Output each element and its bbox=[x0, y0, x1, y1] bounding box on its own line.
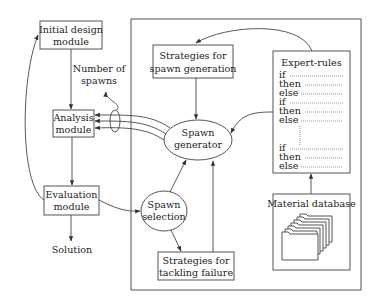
arrow-evaluation-loop-to-initial bbox=[25, 35, 44, 200]
spawn-generator-label-1: Spawn bbox=[182, 127, 215, 138]
expert-rules-box: Expert-rules if then else if then else i… bbox=[273, 51, 350, 173]
number-of-spawns-annotation: Number of spawns bbox=[73, 63, 127, 86]
spawn-design-flow-diagram: Initial design module Number of spawns A… bbox=[0, 0, 379, 304]
evaluation-label-2: module bbox=[54, 201, 90, 212]
evaluation-label-1: Evaluation bbox=[46, 189, 98, 200]
strategies-spawn-label-2: spawn generation bbox=[149, 63, 236, 74]
strategies-failure-label-2: tackling failure bbox=[159, 267, 233, 278]
number-of-spawns-label-2: spawns bbox=[81, 75, 117, 86]
initial-design-module: Initial design module bbox=[39, 21, 103, 49]
material-database-title: Material database bbox=[267, 198, 356, 209]
arrow-number-of-spawns bbox=[106, 92, 118, 110]
spawn-selection-label-2: selection bbox=[142, 211, 186, 222]
strategies-spawn-label-1: Strategies for bbox=[159, 50, 226, 61]
spawn-selection-node: Spawn selection bbox=[141, 191, 187, 231]
spawn-generator-node: Spawn generator bbox=[164, 120, 232, 160]
analysis-label-2: module bbox=[56, 124, 92, 135]
spawn-generator-label-2: generator bbox=[174, 139, 223, 150]
analysis-module: Analysis module bbox=[52, 110, 94, 137]
analysis-label-1: Analysis bbox=[52, 112, 93, 123]
evaluation-module: Evaluation module bbox=[44, 186, 99, 215]
strategies-failure-label-1: Strategies for bbox=[162, 255, 229, 266]
solution-label: Solution bbox=[52, 244, 92, 255]
expert-rules-title: Expert-rules bbox=[281, 57, 341, 68]
strategies-spawn-generation-box: Strategies for spawn generation bbox=[149, 45, 236, 78]
strategies-tackling-failure-box: Strategies for tackling failure bbox=[158, 252, 234, 280]
spawn-selection-label-1: Spawn bbox=[148, 199, 181, 210]
rule-else: else bbox=[279, 114, 299, 125]
initial-design-label-2: module bbox=[53, 36, 89, 47]
number-of-spawns-label-1: Number of bbox=[73, 63, 127, 74]
rule-else: else bbox=[279, 160, 299, 171]
initial-design-label-1: Initial design bbox=[39, 24, 103, 35]
material-database-box: Material database bbox=[267, 194, 356, 270]
